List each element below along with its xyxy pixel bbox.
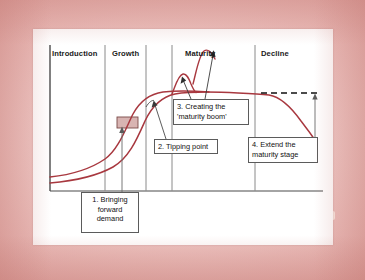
- callout-bringing-forward-demand: 1. Bringing forward demand: [81, 192, 139, 233]
- callout-1-line-2: forward: [85, 205, 135, 215]
- callout-extend-maturity-stage: 4. Extend the maturity stage: [248, 137, 318, 163]
- callout-2-line-1: 2. Tipping point: [158, 142, 214, 152]
- callout-4-arrow: [312, 94, 317, 138]
- stage-label-decline: Decline: [261, 49, 289, 58]
- callout-3-line-2: 'maturity boom': [177, 112, 245, 122]
- stage-label-introduction: Introduction: [52, 49, 98, 58]
- callout-3-line-1: 3. Creating the: [177, 102, 245, 112]
- stage-label-maturity: Maturity: [185, 49, 215, 58]
- callout-4-line-2: maturity stage: [252, 150, 314, 160]
- callout-1-arrow: [119, 127, 125, 193]
- callout-tipping-point: 2. Tipping point: [154, 139, 218, 154]
- decorative-photo-frame: Introduction Growth Maturity Decline 1. …: [0, 0, 365, 280]
- callout-4-line-1: 4. Extend the: [252, 140, 314, 150]
- stage-label-growth: Growth: [112, 49, 139, 58]
- callout-1-line-1: 1. Bringing: [85, 195, 135, 205]
- slide-card: Introduction Growth Maturity Decline 1. …: [33, 29, 333, 245]
- callout-1-line-3: demand: [85, 214, 135, 224]
- callout-2-arrow: [146, 100, 166, 139]
- callout-creating-maturity-boom: 3. Creating the 'maturity boom': [173, 99, 249, 125]
